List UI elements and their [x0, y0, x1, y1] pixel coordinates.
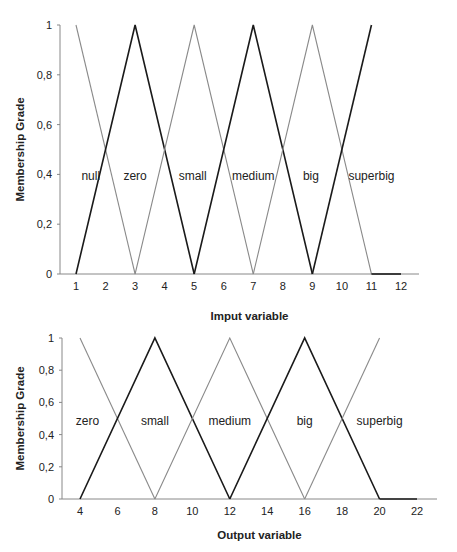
set-label-superbig: superbig	[348, 169, 394, 183]
y-tick-label: 1	[46, 19, 52, 31]
x-tick-label: 7	[250, 280, 256, 292]
x-tick-label: 5	[191, 280, 197, 292]
y-axis-title: Membership Grade	[14, 366, 26, 470]
y-tick-label: 0,6	[37, 119, 52, 131]
set-label-zero: zero	[76, 414, 100, 428]
y-tick-label: 0,6	[39, 396, 54, 408]
y-tick-label: 0	[48, 493, 54, 505]
y-tick-label: 0,8	[37, 69, 52, 81]
x-tick-label: 1	[73, 280, 79, 292]
x-tick-label: 6	[221, 280, 227, 292]
x-tick-label: 4	[162, 280, 168, 292]
membership-line-zero	[76, 25, 194, 274]
set-label-big: big	[303, 169, 319, 183]
x-tick-label: 4	[77, 505, 83, 517]
set-label-small: small	[141, 414, 169, 428]
set-label-zero: zero	[123, 169, 147, 183]
membership-line-small	[135, 25, 253, 274]
y-tick-label: 0	[46, 268, 52, 280]
set-label-small: small	[179, 169, 207, 183]
y-tick-label: 0,2	[39, 461, 54, 473]
x-axis-title: Imput variable	[211, 310, 289, 322]
y-tick-label: 0,8	[39, 364, 54, 376]
x-tick-label: 10	[186, 505, 198, 517]
set-label-superbig: superbig	[357, 414, 403, 428]
x-tick-label: 3	[132, 280, 138, 292]
x-tick-label: 14	[261, 505, 273, 517]
x-tick-label: 22	[411, 505, 423, 517]
set-label-null: null	[81, 169, 100, 183]
y-tick-label: 0,4	[39, 429, 54, 441]
x-tick-label: 8	[152, 505, 158, 517]
x-tick-label: 8	[280, 280, 286, 292]
x-tick-label: 10	[336, 280, 348, 292]
membership-line-big	[253, 25, 371, 274]
x-tick-label: 2	[102, 280, 108, 292]
membership-charts: 00,20,40,60,81123456789101112nullzerosma…	[0, 0, 457, 552]
x-tick-label: 16	[299, 505, 311, 517]
x-tick-label: 18	[336, 505, 348, 517]
set-label-big: big	[297, 414, 313, 428]
x-tick-label: 11	[366, 280, 377, 292]
x-tick-label: 20	[373, 505, 385, 517]
y-tick-label: 0,4	[37, 168, 52, 180]
y-tick-label: 0,2	[37, 218, 52, 230]
membership-line-medium	[194, 25, 312, 274]
x-axis-title: Output variable	[217, 529, 301, 541]
y-tick-label: 1	[48, 332, 54, 344]
x-tick-label: 12	[395, 280, 407, 292]
x-tick-label: 12	[224, 505, 236, 517]
output-membership-chart: 00,20,40,60,8146810121416182022zerosmall…	[14, 332, 437, 541]
y-axis-title: Membership Grade	[14, 97, 26, 201]
set-label-medium: medium	[232, 169, 275, 183]
x-tick-label: 6	[114, 505, 120, 517]
input-membership-chart: 00,20,40,60,81123456789101112nullzerosma…	[14, 19, 419, 322]
x-tick-label: 9	[309, 280, 315, 292]
set-label-medium: medium	[208, 414, 251, 428]
